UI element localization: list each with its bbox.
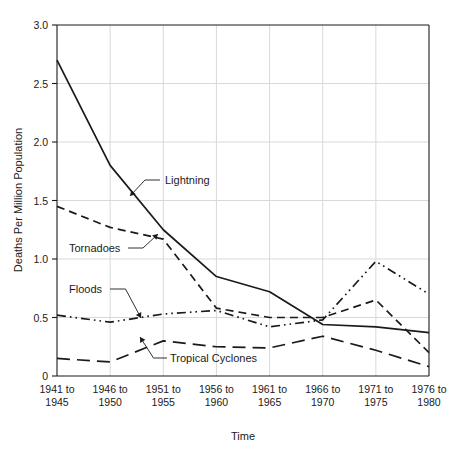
- series-label-tornadoes: Tornadoes: [69, 242, 121, 254]
- x-tick-label: 1941 to1945: [39, 383, 74, 408]
- y-tick-label: 0: [42, 370, 48, 382]
- x-tick-label: 1946 to1950: [93, 383, 128, 408]
- series-line-lightning: [57, 60, 429, 333]
- x-tick-label: 1966 to1970: [305, 383, 340, 408]
- y-tick-label: 1.5: [33, 195, 48, 207]
- y-axis-title: Deaths Per Million Population: [12, 128, 24, 272]
- y-tick-label: 2.0: [33, 136, 48, 148]
- y-tick-label: 2.5: [33, 78, 48, 90]
- x-tick-label: 1956 to1960: [199, 383, 234, 408]
- y-tick-label: 0.5: [33, 312, 48, 324]
- x-tick-label: 1961 to1965: [252, 383, 287, 408]
- x-tick-label: 1951 to1955: [146, 383, 181, 408]
- x-tick-label: 1976 to1980: [411, 383, 446, 408]
- x-tick-label: 1971 to1975: [358, 383, 393, 408]
- series-line-tornadoes: [57, 206, 429, 352]
- annotation-leader-floods: [110, 289, 141, 318]
- y-tick-labels: 00.51.01.52.02.53.0: [33, 19, 48, 382]
- chart-canvas: 00.51.01.52.02.53.0 1941 to19451946 to19…: [0, 0, 451, 454]
- series-label-floods: Floods: [69, 283, 103, 295]
- series-label-tropical-cyclones: Tropical Cyclones: [170, 352, 258, 364]
- series-label-lightning: Lightning: [165, 174, 210, 186]
- series-group: [57, 60, 429, 367]
- y-tick-label: 1.0: [33, 253, 48, 265]
- x-axis-title: Time: [231, 430, 255, 442]
- y-tick-marks: [52, 25, 57, 376]
- y-tick-label: 3.0: [33, 19, 48, 31]
- line-chart: 00.51.01.52.02.53.0 1941 to19451946 to19…: [0, 0, 451, 454]
- annotation-arrowhead: [140, 337, 145, 343]
- x-tick-labels: 1941 to19451946 to19501951 to19551956 to…: [39, 383, 446, 408]
- gridlines-group: [57, 25, 429, 376]
